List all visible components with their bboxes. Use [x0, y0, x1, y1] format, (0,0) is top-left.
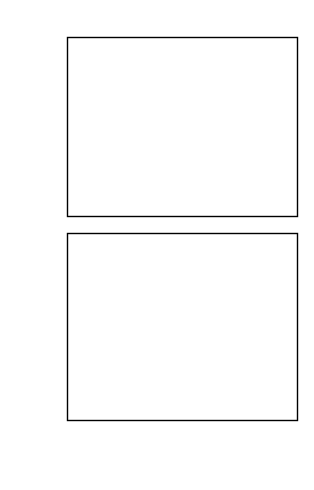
bottom-panel: [68, 234, 298, 421]
top-panel: [68, 38, 298, 217]
two-panel-chart: [0, 0, 314, 490]
top-panel-frame: [68, 38, 298, 217]
figure-root: [0, 0, 314, 490]
bottom-panel-frame: [68, 234, 298, 421]
